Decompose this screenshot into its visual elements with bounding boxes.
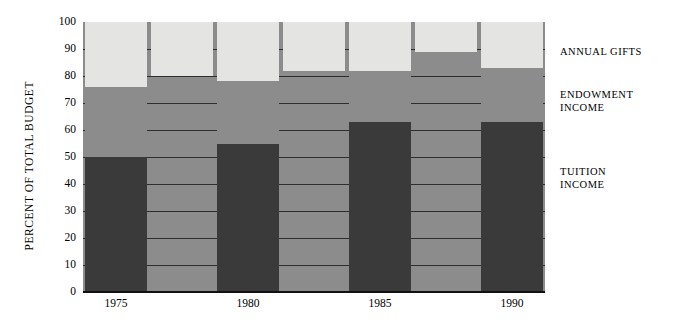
y-axis-tick-50: 50 bbox=[65, 151, 77, 163]
segment-tuition-income bbox=[415, 122, 477, 292]
y-axis-tick-40: 40 bbox=[65, 178, 77, 190]
segment-annual-gifts bbox=[217, 22, 279, 81]
chart-legend: ANNUAL GIFTSENDOWMENT INCOMETUITION INCO… bbox=[560, 0, 684, 331]
y-axis-tick-labels: 0102030405060708090100 bbox=[44, 0, 76, 331]
x-axis-tick-1980: 1980 bbox=[237, 298, 260, 310]
segment-endowment-income bbox=[349, 71, 411, 122]
segment-tuition-income bbox=[217, 144, 279, 293]
segment-endowment-income bbox=[151, 76, 213, 157]
bar-1985 bbox=[349, 22, 411, 292]
segment-endowment-income bbox=[415, 52, 477, 122]
y-axis-tick-70: 70 bbox=[65, 97, 77, 109]
segment-endowment-income bbox=[85, 87, 147, 157]
segment-annual-gifts bbox=[481, 22, 543, 68]
y-axis-tick-90: 90 bbox=[65, 43, 77, 55]
segment-endowment-income bbox=[481, 68, 543, 122]
y-axis-tick-0: 0 bbox=[70, 286, 76, 298]
segment-tuition-income bbox=[481, 122, 543, 292]
legend-entry-annual-gifts: ANNUAL GIFTS bbox=[560, 45, 642, 58]
bar-background-slot bbox=[283, 22, 345, 292]
x-axis-tick-1975: 1975 bbox=[105, 298, 128, 310]
segment-tuition-income bbox=[349, 122, 411, 292]
segment-annual-gifts bbox=[151, 22, 213, 76]
x-axis-line bbox=[83, 291, 545, 293]
x-axis-tick-labels: 1975198019851990 bbox=[83, 296, 545, 322]
segment-tuition-income bbox=[85, 157, 147, 292]
y-axis-tick-100: 100 bbox=[59, 16, 76, 28]
y-axis-tick-10: 10 bbox=[65, 259, 77, 271]
bar-background-slot bbox=[415, 22, 477, 292]
y-axis-tick-20: 20 bbox=[65, 232, 77, 244]
segment-annual-gifts bbox=[415, 22, 477, 52]
segment-endowment-income bbox=[217, 81, 279, 143]
segment-tuition-income bbox=[283, 144, 345, 293]
y-axis-tick-30: 30 bbox=[65, 205, 77, 217]
y-axis-tick-60: 60 bbox=[65, 124, 77, 136]
legend-entry-tuition-income: TUITION INCOME bbox=[560, 165, 606, 192]
stacked-bar-chart: PERCENT OF TOTAL BUDGET 0102030405060708… bbox=[0, 0, 684, 331]
y-axis-title-label: PERCENT OF TOTAL BUDGET bbox=[23, 81, 35, 250]
segment-annual-gifts bbox=[283, 22, 345, 71]
segment-annual-gifts bbox=[349, 22, 411, 71]
plot-area bbox=[83, 22, 545, 292]
x-axis-tick-1985: 1985 bbox=[369, 298, 392, 310]
y-axis-tick-80: 80 bbox=[65, 70, 77, 82]
segment-tuition-income bbox=[151, 157, 213, 292]
y-axis-title: PERCENT OF TOTAL BUDGET bbox=[16, 0, 42, 331]
bar-1975 bbox=[85, 22, 147, 292]
legend-entry-endowment-income: ENDOWMENT INCOME bbox=[560, 88, 633, 115]
x-axis-tick-1990: 1990 bbox=[501, 298, 524, 310]
bar-1990 bbox=[481, 22, 543, 292]
bar-background-slot bbox=[151, 22, 213, 292]
segment-endowment-income bbox=[283, 71, 345, 144]
bar-group bbox=[83, 22, 545, 292]
segment-annual-gifts bbox=[85, 22, 147, 87]
bar-1980 bbox=[217, 22, 279, 292]
